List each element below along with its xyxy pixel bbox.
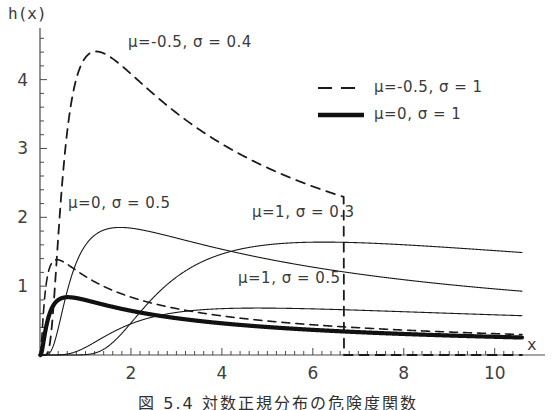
annot-mu-m05-s04: μ=-0.5, σ = 0.4 <box>128 33 252 51</box>
curve-mu-0-sigma-1 <box>40 297 522 355</box>
y-tick-label: 4 <box>17 70 28 90</box>
y-tick-label: 3 <box>17 138 28 158</box>
annot-mu-0-s05: μ=0, σ = 0.5 <box>68 194 171 212</box>
x-tick-label: 10 <box>484 363 506 383</box>
x-tick-label: 8 <box>398 363 409 383</box>
annot-mu-1-s05: μ=1, σ = 0.5 <box>238 269 341 287</box>
figure-caption: 図 5.4 対数正規分布の危険度関数 <box>0 390 556 410</box>
y-tick-label: 2 <box>17 207 28 227</box>
x-axis-label: x <box>527 335 537 354</box>
y-tick-label: 1 <box>17 276 28 296</box>
figure-container: 2468101234 h(x) x 図 5.4 対数正規分布の危険度関数 μ=-… <box>0 0 556 410</box>
x-tick-label: 2 <box>126 363 137 383</box>
x-tick-label: 4 <box>216 363 227 383</box>
legend-mu-m05-s1: μ=-0.5, σ = 1 <box>374 78 483 96</box>
curve-mu-1-sigma-0-3 <box>40 242 522 355</box>
annot-mu-1-s03: μ=1, σ = 0.3 <box>252 203 355 221</box>
x-tick-label: 6 <box>307 363 318 383</box>
legend-mu-0-s1: μ=0, σ = 1 <box>374 105 461 123</box>
y-axis-label: h(x) <box>8 4 47 23</box>
